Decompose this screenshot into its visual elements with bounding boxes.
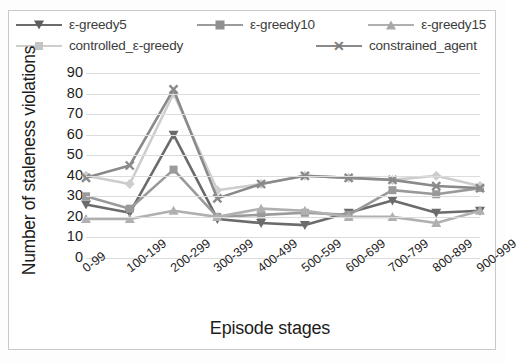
gridline bbox=[86, 155, 480, 156]
x-tick-label: 900-999 bbox=[474, 236, 519, 275]
y-tick-label: 80 bbox=[49, 85, 83, 101]
y-tick-label: 0 bbox=[49, 249, 83, 265]
y-tick-label: 10 bbox=[49, 228, 83, 244]
data-point-marker bbox=[170, 166, 178, 174]
gridline bbox=[86, 114, 480, 115]
gridline bbox=[86, 217, 480, 218]
series-line bbox=[86, 89, 480, 198]
y-tick-label: 40 bbox=[49, 167, 83, 183]
series--greedy10 bbox=[82, 166, 484, 221]
data-point-marker bbox=[388, 186, 396, 194]
gridline bbox=[86, 176, 480, 177]
y-tick-label: 50 bbox=[49, 146, 83, 162]
y-tick-label: 20 bbox=[49, 208, 83, 224]
data-point-marker bbox=[125, 179, 135, 189]
y-axis-tick-labels: 9080706050403020100 bbox=[47, 0, 83, 363]
y-tick-label: 30 bbox=[49, 187, 83, 203]
gridline bbox=[86, 135, 480, 136]
gridline bbox=[86, 196, 480, 197]
gridline bbox=[86, 94, 480, 95]
plot-area bbox=[86, 73, 480, 258]
series-lines bbox=[86, 73, 480, 258]
y-tick-label: 70 bbox=[49, 105, 83, 121]
data-point-marker bbox=[126, 205, 134, 213]
y-tick-label: 90 bbox=[49, 64, 83, 80]
x-axis-tick-labels: 0-99100-199200-299300-399400-499500-5996… bbox=[86, 262, 480, 322]
series-constrained-agent bbox=[82, 85, 484, 202]
gridline bbox=[86, 73, 480, 74]
series-line bbox=[86, 209, 480, 223]
y-tick-label: 60 bbox=[49, 126, 83, 142]
y-axis-title: Number of staleness violations bbox=[19, 46, 40, 276]
